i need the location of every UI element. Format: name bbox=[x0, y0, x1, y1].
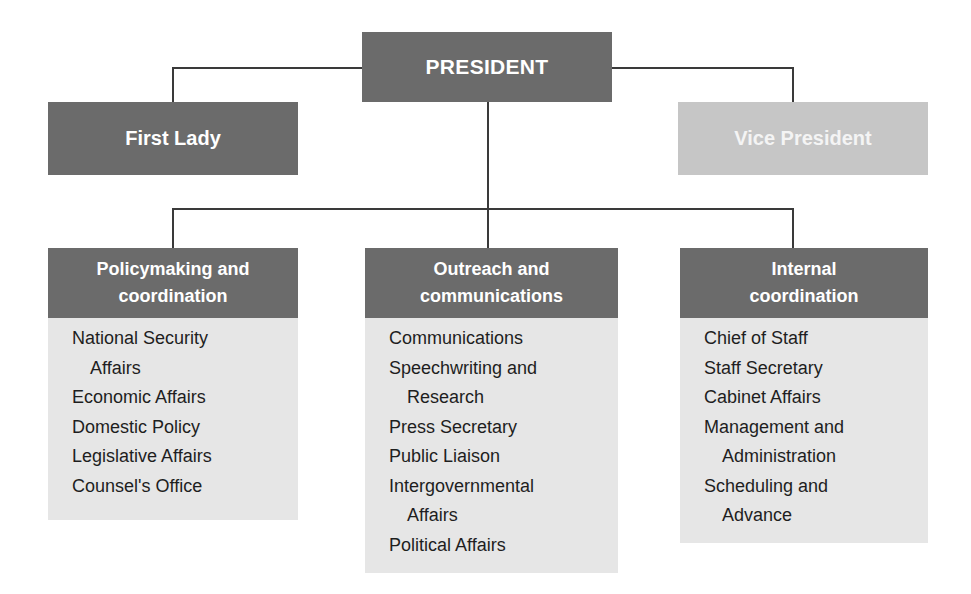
unit-title-line: coordination bbox=[96, 283, 249, 310]
item-text-continued: Research bbox=[389, 383, 618, 413]
list-item: Public Liaison bbox=[389, 442, 618, 472]
item-text: Intergovernmental bbox=[389, 476, 534, 496]
item-text: Economic Affairs bbox=[72, 387, 206, 407]
list-item: Chief of Staff bbox=[704, 324, 928, 354]
unit-policymaking: Policymaking and coordination National S… bbox=[48, 248, 298, 520]
list-item: Counsel's Office bbox=[72, 472, 298, 502]
item-text: Domestic Policy bbox=[72, 417, 200, 437]
list-item: Political Affairs bbox=[389, 531, 618, 561]
item-text: Staff Secretary bbox=[704, 358, 823, 378]
connector-units-horizontal bbox=[172, 208, 794, 210]
list-item: Scheduling and Advance bbox=[704, 472, 928, 531]
item-text: Counsel's Office bbox=[72, 476, 202, 496]
list-item: Domestic Policy bbox=[72, 413, 298, 443]
vice-president-box: Vice President bbox=[678, 102, 928, 175]
first-lady-label: First Lady bbox=[125, 127, 221, 150]
unit-header: Internal coordination bbox=[680, 248, 928, 318]
item-text: Speechwriting and bbox=[389, 358, 537, 378]
first-lady-box: First Lady bbox=[48, 102, 298, 175]
item-text-continued: Affairs bbox=[72, 354, 298, 384]
unit-header: Policymaking and coordination bbox=[48, 248, 298, 318]
list-item: Economic Affairs bbox=[72, 383, 298, 413]
item-text: Management and bbox=[704, 417, 844, 437]
connector-president-down bbox=[487, 100, 489, 249]
vice-president-label: Vice President bbox=[734, 127, 871, 150]
list-item: Staff Secretary bbox=[704, 354, 928, 384]
president-label: PRESIDENT bbox=[426, 55, 549, 79]
list-item: Communications bbox=[389, 324, 618, 354]
unit-body: National Security Affairs Economic Affai… bbox=[48, 318, 298, 520]
list-item: Press Secretary bbox=[389, 413, 618, 443]
item-text: Scheduling and bbox=[704, 476, 828, 496]
item-text: Public Liaison bbox=[389, 446, 500, 466]
unit-title-line: communications bbox=[420, 283, 563, 310]
list-item: Speechwriting and Research bbox=[389, 354, 618, 413]
list-item: Cabinet Affairs bbox=[704, 383, 928, 413]
unit-outreach: Outreach and communications Communicatio… bbox=[365, 248, 618, 573]
item-text: Chief of Staff bbox=[704, 328, 808, 348]
item-text-continued: Affairs bbox=[389, 501, 618, 531]
item-text-continued: Administration bbox=[704, 442, 928, 472]
connector-unit-1-vertical bbox=[172, 208, 174, 249]
item-text: Press Secretary bbox=[389, 417, 517, 437]
unit-title-line: Outreach and bbox=[420, 256, 563, 283]
list-item: Legislative Affairs bbox=[72, 442, 298, 472]
connector-first-lady-vertical bbox=[172, 67, 174, 103]
list-item: Management and Administration bbox=[704, 413, 928, 472]
connector-unit-3-vertical bbox=[792, 208, 794, 249]
unit-body: Communications Speechwriting and Researc… bbox=[365, 318, 618, 573]
item-text: Cabinet Affairs bbox=[704, 387, 821, 407]
item-text: Communications bbox=[389, 328, 523, 348]
item-text: Political Affairs bbox=[389, 535, 506, 555]
list-item: Intergovernmental Affairs bbox=[389, 472, 618, 531]
unit-title-line: coordination bbox=[750, 283, 859, 310]
item-text: National Security bbox=[72, 328, 208, 348]
unit-title-line: Policymaking and bbox=[96, 256, 249, 283]
item-text: Legislative Affairs bbox=[72, 446, 212, 466]
president-box: PRESIDENT bbox=[362, 32, 612, 102]
unit-title-line: Internal bbox=[750, 256, 859, 283]
unit-internal-coordination: Internal coordination Chief of Staff Sta… bbox=[680, 248, 928, 543]
unit-body: Chief of Staff Staff Secretary Cabinet A… bbox=[680, 318, 928, 543]
item-text-continued: Advance bbox=[704, 501, 928, 531]
connector-vice-president-vertical bbox=[792, 67, 794, 103]
list-item: National Security Affairs bbox=[72, 324, 298, 383]
unit-header: Outreach and communications bbox=[365, 248, 618, 318]
